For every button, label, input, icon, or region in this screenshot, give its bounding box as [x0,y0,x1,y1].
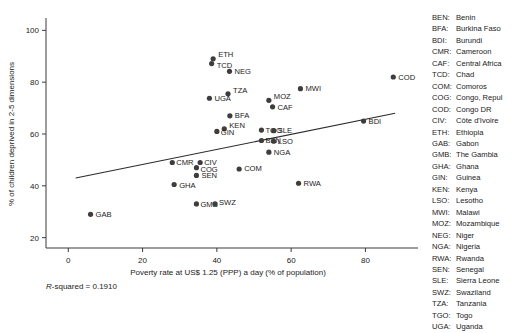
legend-code: BEN: [432,12,456,23]
legend-country-name: Comoros [456,81,518,92]
data-point-label-swz: SWZ [219,198,236,207]
legend-row: TCD:Chad [432,69,518,80]
data-point-label-gab: GAB [96,210,112,219]
legend-row: BFA:Burkina Faso [432,23,518,34]
legend-row: CIV:Côte d'Ivoire [432,115,518,126]
legend-country-name: Cameroon [456,46,518,57]
data-point-cmr [170,160,175,165]
legend-code: CIV: [432,115,456,126]
data-point-tgo [259,128,264,133]
legend-country-name: Congo, Repul [456,92,518,103]
legend-code: KEN: [432,184,456,195]
r-squared-value: -squared = 0.1910 [52,282,118,291]
data-point-label-gin: GIN [221,128,235,137]
data-point-label-rwa: RWA [304,179,322,188]
data-point-label-tcd: TCD [217,61,233,70]
data-point-moz [266,98,271,103]
legend-row: CAF:Central Africa [432,58,518,69]
legend-country-name: Guinea [456,172,518,183]
x-tick-label: 40 [212,256,221,265]
legend-code: GAB: [432,138,456,149]
data-point-sle [271,128,276,133]
legend-country-name: Niger [456,230,518,241]
legend-country-name: Gabon [456,138,518,149]
x-axis-title: Poverty rate at US$ 1.25 (PPP) a day (% … [130,268,326,277]
data-point-label-sle: SLE [278,126,292,135]
data-point-gmb [194,201,199,206]
legend-code: TCD: [432,69,456,80]
legend-row: RWA:Rwanda [432,253,518,264]
data-point-mwi [298,86,303,91]
legend-country-name: The Gambia [456,149,518,160]
legend-row: TGO:Togo [432,310,518,321]
legend-country-name: Sierra Leone [456,275,518,286]
legend-country-name: Burkina Faso [456,23,518,34]
legend-row: COM:Comoros [432,81,518,92]
legend-code: ETH: [432,127,456,138]
data-point-cod [391,74,396,79]
legend-row: TZA:Tanzania [432,298,518,309]
legend-country-name: Malawi [456,207,518,218]
data-point-tcd [209,61,214,66]
x-tick-label: 0 [66,256,71,265]
legend-row: UGA:Uganda [432,321,518,332]
data-point-ben [259,138,264,143]
legend-row: BDI:Burundi [432,35,518,46]
y-tick-label: 20 [30,234,39,243]
legend-code: TZA: [432,298,456,309]
legend-code: TGO: [432,310,456,321]
legend-country-name: Nigeria [456,241,518,252]
data-point-label-mwi: MWI [305,84,321,93]
data-point-eth [211,56,216,61]
legend-code: MWI: [432,207,456,218]
legend-row: GMB:The Gambia [432,149,518,160]
x-tick-label: 20 [138,256,147,265]
legend-row: MWI:Malawi [432,207,518,218]
data-point-sen [194,173,199,178]
legend-country-name: Lesotho [456,195,518,206]
data-point-swz [212,201,217,206]
legend-row: NEG:Niger [432,230,518,241]
data-point-bfa [227,113,232,118]
legend-row: GHA:Ghana [432,161,518,172]
legend-country-name: Tanzania [456,298,518,309]
legend-row: KEN:Kenya [432,184,518,195]
data-point-label-cmr: CMR [176,158,194,167]
legend-row: NGA:Nigeria [432,241,518,252]
legend-code: CMR: [432,46,456,57]
legend-code: SLE: [432,275,456,286]
y-tick-label: 100 [26,26,40,35]
data-point-label-nga: NGA [274,148,291,157]
data-point-neg [227,69,232,74]
data-point-bdi [361,118,366,123]
legend-country-name: Central Africa [456,58,518,69]
legend-code: BFA: [432,23,456,34]
legend-row: SEN:Senegal [432,264,518,275]
legend-row: ETH:Ethiopia [432,127,518,138]
legend-row: GAB:Gabon [432,138,518,149]
legend-country-name: Côte d'Ivoire [456,115,518,126]
data-point-label-cod: COD [398,73,415,82]
legend-code: COG: [432,92,456,103]
data-point-label-com: COM [244,164,262,173]
data-point-label-eth: ETH [218,50,233,59]
data-point-label-gha: GHA [179,181,196,190]
data-point-nga [266,150,271,155]
legend-code: GHA: [432,161,456,172]
legend-row: MOZ:Mozambique [432,218,518,229]
legend-row: COG:Congo, Repul [432,92,518,103]
data-point-gha [172,182,177,187]
x-tick-label: 80 [361,256,370,265]
data-point-label-uga: UGA [214,94,231,103]
legend-code: SWZ: [432,287,456,298]
x-tick-label: 60 [287,256,296,265]
data-point-lso [271,139,276,144]
data-point-label-tza: TZA [233,86,248,95]
legend-code: NGA: [432,241,456,252]
legend-country-name: Senegal [456,264,518,275]
data-point-gin [214,129,219,134]
data-point-label-moz: MOZ [274,92,291,101]
legend-row: BEN:Benin [432,12,518,23]
y-tick-label: 80 [30,78,39,87]
data-point-label-bdi: BDI [369,117,382,126]
